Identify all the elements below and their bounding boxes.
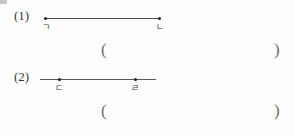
problem-2-answer-row: ( ) xyxy=(0,101,295,121)
segment-point-left-2 xyxy=(58,78,61,81)
problem-1-figure: ㄱ ㄴ xyxy=(0,8,295,38)
scan-artifact xyxy=(0,0,7,4)
answer-paren-open-1: ( xyxy=(101,40,107,60)
worksheet-page: (1) ㄱ ㄴ ( ) (2) ㄷ ㄹ ( ) xyxy=(0,0,295,136)
answer-blank-1[interactable] xyxy=(110,42,272,58)
problem-2-figure: ㄷ ㄹ xyxy=(0,69,295,99)
answer-blank-2[interactable] xyxy=(110,103,272,119)
problem-1-answer-row: ( ) xyxy=(0,40,295,60)
segment-endpoint-right-1 xyxy=(158,17,161,20)
point-label-rieul: ㄹ xyxy=(131,83,139,94)
segment-line-1 xyxy=(44,18,161,19)
segment-point-right-2 xyxy=(134,78,137,81)
point-label-nieun: ㄴ xyxy=(156,22,164,33)
segment-endpoint-left-1 xyxy=(44,17,47,20)
answer-paren-close-2: ) xyxy=(274,101,280,121)
point-label-giyeok: ㄱ xyxy=(42,22,50,33)
answer-paren-close-1: ) xyxy=(274,40,280,60)
answer-paren-open-2: ( xyxy=(101,101,107,121)
point-label-digeut: ㄷ xyxy=(55,83,63,94)
